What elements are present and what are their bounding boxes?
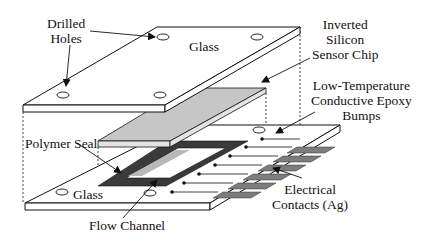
electrical-contacts-label: Electrical Contacts (Ag) [272,182,348,212]
bottom-glass-label: Glass [73,187,103,202]
microfluidic-sensor-diagram: Drilled Holes Glass Inverted Silicon Sen… [0,0,435,243]
epoxy-bumps-label-line2: Conductive Epoxy [311,93,412,108]
epoxy-bumps-label-line3: Bumps [311,108,412,123]
flow-channel-label: Flow Channel [89,218,165,233]
electrical-contacts-label-line1: Electrical [272,182,348,197]
epoxy-bumps-label-line1: Low-Temperature [311,78,412,93]
drilled-holes-label-line2: Holes [47,31,85,46]
sensor-chip-label-line1: Inverted [312,17,378,32]
top-glass-label: Glass [189,39,219,54]
electrical-contacts-label-line2: Contacts (Ag) [272,197,348,212]
sensor-chip-label: Inverted Silicon Sensor Chip [312,17,378,62]
sensor-chip-label-line3: Sensor Chip [312,47,378,62]
sensor-chip-label-line2: Silicon [312,32,378,47]
drilled-holes-label-line1: Drilled [47,16,85,31]
epoxy-bumps-label: Low-Temperature Conductive Epoxy Bumps [311,78,412,123]
drilled-holes-label: Drilled Holes [47,16,85,46]
polymer-seal-label: Polymer Seal [25,136,97,151]
